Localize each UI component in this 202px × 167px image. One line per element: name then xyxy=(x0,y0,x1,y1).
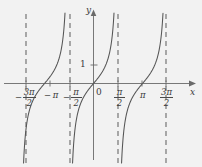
numerator: π xyxy=(72,88,80,97)
x-tick-label-neg-pi: − π xyxy=(44,91,59,100)
numerator: 3π xyxy=(23,88,36,97)
minus-sign: − xyxy=(44,91,51,100)
plot-canvas xyxy=(0,0,202,167)
y-axis-label: y xyxy=(86,6,91,15)
x-tick-label-pi: π xyxy=(139,91,147,100)
y-tick-label-one: 1 xyxy=(80,60,86,69)
x-axis-label: x xyxy=(190,88,195,97)
fraction-stack: 3π 2 xyxy=(23,88,36,108)
x-tick-label-neg-3pi-over-2: − 3π 2 xyxy=(15,88,36,108)
denominator: 2 xyxy=(163,99,170,108)
numerator: π xyxy=(52,91,60,100)
fraction-stack: π 2 xyxy=(71,88,82,108)
x-tick-label-neg-pi-over-2: − π 2 xyxy=(63,88,82,108)
numerator: π xyxy=(116,88,124,97)
fraction-stack: π xyxy=(52,91,60,100)
x-axis xyxy=(4,81,196,87)
x-tick-label-pi-over-2: π 2 xyxy=(114,88,125,108)
x-tick-label-3pi-over-2: 3π 2 xyxy=(160,88,173,108)
numerator: π xyxy=(139,91,147,100)
denominator: 2 xyxy=(72,99,79,108)
numerator: 3π xyxy=(160,88,173,97)
tangent-function-graph: y x 0 1 − 3π 2 − π − π 2 π 2 π xyxy=(0,0,202,167)
denominator: 2 xyxy=(116,99,123,108)
tangent-branch-right xyxy=(122,13,163,163)
denominator: 2 xyxy=(25,99,32,108)
minus-sign: − xyxy=(63,93,70,102)
y-axis xyxy=(91,10,97,161)
minus-sign: − xyxy=(15,93,22,102)
origin-label: 0 xyxy=(96,88,102,97)
